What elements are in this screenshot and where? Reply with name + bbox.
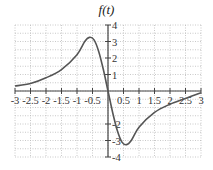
y-tick-label: -4 (112, 152, 121, 163)
x-tick-label: -2 (42, 95, 51, 106)
x-tick-label: -1.5 (53, 95, 70, 106)
x-tick-label: 1.5 (148, 95, 161, 106)
x-tick-label: 0.5 (117, 95, 130, 106)
y-tick-label: 1 (112, 70, 117, 81)
x-tick-label: -2.5 (22, 95, 39, 106)
x-tick-label: -3 (11, 95, 20, 106)
x-tick-label: -0.5 (84, 95, 101, 106)
x-tick-label: 1 (136, 95, 141, 106)
x-tick-label: 3 (198, 95, 203, 106)
y-tick-label: 4 (112, 20, 118, 31)
x-tick-label: -1 (73, 95, 82, 106)
y-tick-label: 3 (112, 37, 117, 48)
y-tick-label: 2 (112, 53, 117, 64)
chart-plot-area: -3-2.5-2-1.5-1-0.50.511.522.534321-2-3-4 (0, 0, 213, 170)
